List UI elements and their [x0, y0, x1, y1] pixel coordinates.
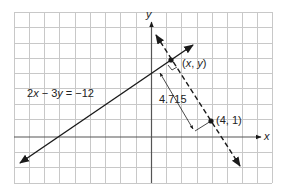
point-4-1 [208, 118, 213, 123]
equation-label: 2x − 3y = −12 [27, 87, 94, 99]
y-axis-label: y [145, 8, 153, 20]
point-xy-label: (x, y) [182, 57, 206, 69]
point-4-1-label: (4, 1) [216, 114, 242, 126]
distance-label: 4.715 [159, 93, 187, 105]
coordinate-plane: x y (x, y) (4, 1) 4.715 2x − 3y = −12 [0, 0, 283, 196]
point-xy [168, 57, 173, 62]
x-axis-label: x [263, 130, 270, 142]
